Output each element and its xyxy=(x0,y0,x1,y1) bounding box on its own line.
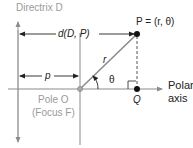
q-label: Q xyxy=(133,95,141,105)
polar-axis-label-1: Polar xyxy=(168,80,193,91)
point-p xyxy=(134,31,140,37)
p-label: p xyxy=(45,71,51,81)
polar-axis-label-2: axis xyxy=(168,93,188,104)
distance-label: d(D, P) xyxy=(58,29,90,39)
focus-label: (Focus F) xyxy=(32,108,75,118)
directrix-label: Directrix D xyxy=(16,3,63,13)
pole-label: Pole O xyxy=(38,95,69,105)
point-p-label: P = (r, θ) xyxy=(136,17,174,27)
pole-point xyxy=(78,87,83,92)
theta-label: θ xyxy=(109,75,115,85)
r-label: r xyxy=(103,55,106,65)
point-q xyxy=(134,86,140,92)
polar-conic-diagram: Directrix D d(D, P) P = (r, θ) r θ p Pol… xyxy=(0,0,193,148)
theta-arc xyxy=(93,76,98,89)
